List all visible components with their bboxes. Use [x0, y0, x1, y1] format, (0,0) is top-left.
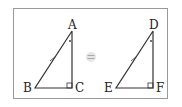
triangle-def: D E F [104, 18, 164, 95]
label-d: D [149, 18, 159, 32]
label-b: B [23, 81, 32, 95]
triangle-abc: A B C [23, 18, 84, 95]
label-f: F [156, 81, 164, 95]
label-e: E [104, 81, 113, 95]
congruence-symbol [86, 52, 96, 62]
label-c: C [75, 81, 84, 95]
angle-mark-d [150, 40, 152, 42]
congruence-diagram: A B C D E F [0, 0, 182, 107]
right-angle-mark-f [148, 83, 153, 88]
angle-mark-a [69, 40, 71, 42]
label-a: A [67, 18, 77, 32]
right-angle-mark-c [67, 83, 72, 88]
